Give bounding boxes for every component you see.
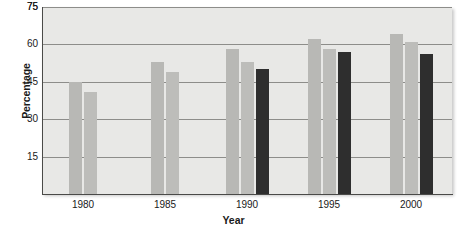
bar-2000-series2 xyxy=(405,42,418,194)
x-axis-title: Year xyxy=(0,214,467,226)
x-tick-label-2000: 2000 xyxy=(381,199,441,210)
y-tick-label-30: 30 xyxy=(12,114,38,124)
bar-1995-series2 xyxy=(323,49,336,194)
x-tick-label-1980: 1980 xyxy=(53,199,113,210)
bar-1995-series1 xyxy=(308,39,321,194)
x-tick-label-1990: 1990 xyxy=(217,199,277,210)
x-tick-label-1995: 1995 xyxy=(299,199,359,210)
bar-1980-series2 xyxy=(84,92,97,194)
bar-2000-series1 xyxy=(390,34,403,194)
bar-1985-series2 xyxy=(166,72,179,194)
y-axis-tick-group: 153045607575 xyxy=(8,0,38,232)
gridline-75 xyxy=(42,7,452,8)
x-axis-line xyxy=(42,194,453,195)
bar-1990-series3 xyxy=(256,69,269,194)
bar-1995-series3 xyxy=(338,52,351,194)
bar-1980-series1 xyxy=(69,82,82,194)
bar-1985-series1 xyxy=(151,62,164,194)
plot-area xyxy=(42,7,452,194)
bar-1990-series1 xyxy=(226,49,239,194)
y-tick-label-75: 75 xyxy=(12,2,38,12)
y-axis-line xyxy=(42,7,43,195)
y-tick-label-60: 60 xyxy=(12,39,38,49)
y-tick-label-45: 45 xyxy=(12,77,38,87)
bar-2000-series3 xyxy=(420,54,433,194)
x-tick-label-1985: 1985 xyxy=(135,199,195,210)
bar-chart-figure: Percentage 153045607575 Year 19801985199… xyxy=(0,0,467,232)
bar-1990-series2 xyxy=(241,62,254,194)
y-tick-label-15: 15 xyxy=(12,152,38,162)
plot-inner xyxy=(42,7,452,194)
